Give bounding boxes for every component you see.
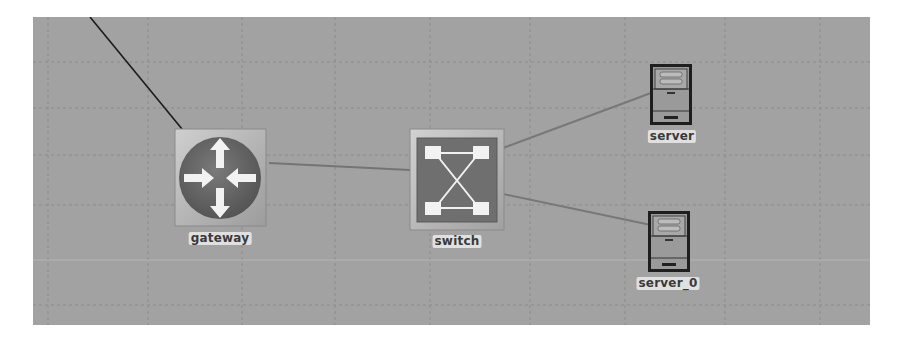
server-icon — [650, 64, 692, 126]
node-switch[interactable]: switch — [409, 128, 505, 248]
server-icon — [648, 211, 690, 273]
router-icon — [174, 128, 267, 228]
link-uplink-gateway[interactable] — [90, 17, 182, 129]
node-server[interactable]: server — [650, 64, 694, 154]
node-label-gateway: gateway — [189, 232, 252, 245]
node-label-switch: switch — [433, 235, 482, 248]
switch-icon — [409, 128, 505, 232]
node-server-0[interactable]: server_0 — [648, 211, 692, 301]
network-canvas[interactable]: gateway switch — [33, 17, 870, 325]
node-label-server: server — [648, 130, 696, 143]
node-gateway[interactable]: gateway — [174, 128, 269, 248]
link-switch-server[interactable] — [503, 93, 651, 148]
link-gateway-switch[interactable] — [269, 163, 410, 170]
node-label-server-0: server_0 — [636, 277, 699, 290]
link-switch-server0[interactable] — [503, 194, 651, 225]
